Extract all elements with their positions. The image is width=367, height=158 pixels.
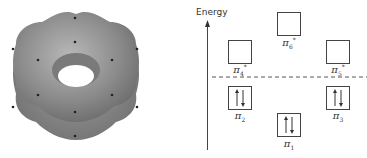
spin-pair-icon (327, 87, 349, 109)
orbital-pi6-star-label: π6* (274, 36, 304, 50)
orbital-pi3-box (326, 86, 350, 110)
orbital-pi1-label: π1 (274, 138, 304, 151)
benzene-pi-torus-illustration (0, 0, 160, 158)
spin-pair-icon (278, 114, 300, 136)
orbital-pi2-box (228, 86, 252, 110)
orbital-pi3-label: π3 (323, 110, 353, 123)
energy-axis-label: Energy (196, 7, 228, 17)
spin-pair-icon (229, 87, 251, 109)
orbital-pi5-star-label: π5* (323, 63, 353, 77)
orbital-pi4-star-label: π4* (225, 63, 255, 77)
orbital-pi2-label: π2 (225, 110, 255, 123)
orbital-pi5-star-box (326, 40, 350, 64)
orbital-pi6-star-box (277, 12, 301, 36)
orbital-pi1-box (277, 113, 301, 137)
energy-axis-arrow (200, 20, 216, 154)
orbital-pi4-star-box (228, 40, 252, 64)
